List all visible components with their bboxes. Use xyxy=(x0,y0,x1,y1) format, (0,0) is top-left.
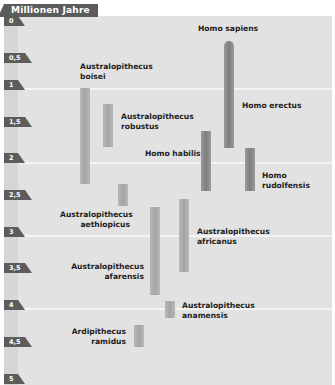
label-line-2: africanus xyxy=(197,237,270,247)
bar-homo-sapiens-erectus xyxy=(224,41,234,148)
bar-homo-habilis xyxy=(201,131,211,191)
label-homo-erectus: Homo erectus xyxy=(242,101,301,111)
bar-australopithecus-robustus xyxy=(103,104,113,147)
label-line-2: anamensis xyxy=(182,311,255,321)
tick-5: 5 xyxy=(4,374,18,384)
label-australopithecus-robustus: Australopithecus robustus xyxy=(121,112,194,132)
bar-australopithecus-aethiopicus xyxy=(118,184,128,206)
gridline-3 xyxy=(18,235,332,237)
label-line-1: Homo xyxy=(262,171,310,181)
label-homo-sapiens: Homo sapiens xyxy=(198,24,258,34)
label-line-2: afarensis xyxy=(70,272,144,282)
label-line-1: Australopithecus xyxy=(70,262,144,272)
tick-1-5: 1,5 xyxy=(4,117,25,127)
label-line-1: Australopithecus xyxy=(182,301,255,311)
label-line-1: Australopithecus xyxy=(197,227,270,237)
label-line-1: Ardipithecus xyxy=(66,327,126,337)
bar-australopithecus-anamensis xyxy=(165,301,175,318)
chart-panel xyxy=(4,16,332,385)
tick-0: 0 xyxy=(4,16,18,26)
label-line-1: Australopithecus xyxy=(121,112,194,122)
label-homo-habilis: Homo habilis xyxy=(145,149,197,159)
label-homo-rudolfensis: Homo rudolfensis xyxy=(262,171,310,191)
tick-4: 4 xyxy=(4,300,18,310)
label-line-2: rudolfensis xyxy=(262,181,310,191)
bar-homo-rudolfensis xyxy=(245,148,255,191)
bar-australopithecus-boisei xyxy=(80,88,90,184)
label-line-2: boisei xyxy=(80,72,153,82)
tick-4-5: 4,5 xyxy=(4,337,25,347)
gridline-1 xyxy=(18,88,332,90)
label-australopithecus-anamensis: Australopithecus anamensis xyxy=(182,301,255,321)
label-line-1: Australopithecus xyxy=(80,62,153,72)
label-australopithecus-africanus: Australopithecus africanus xyxy=(197,227,270,247)
bar-australopithecus-afarensis xyxy=(150,207,160,295)
label-australopithecus-aethiopicus: Australopithecus aethiopicus xyxy=(60,210,130,230)
bar-australopithecus-africanus xyxy=(179,199,189,272)
label-australopithecus-afarensis: Australopithecus afarensis xyxy=(70,262,144,282)
bar-ardipithecus-ramidus xyxy=(134,325,144,347)
y-axis-strip xyxy=(4,16,18,385)
label-line-1: Australopithecus xyxy=(60,210,130,220)
label-australopithecus-boisei: Australopithecus boisei xyxy=(80,62,153,82)
tick-3: 3 xyxy=(4,227,18,237)
label-ardipithecus-ramidus: Ardipithecus ramidus xyxy=(66,327,126,347)
gridline-4 xyxy=(18,308,332,310)
tick-0-5: 0,5 xyxy=(4,53,25,63)
label-line-2: ramidus xyxy=(66,337,126,347)
tick-1: 1 xyxy=(4,80,18,90)
tick-2: 2 xyxy=(4,153,18,163)
tick-3-5: 3,5 xyxy=(4,263,25,273)
gridline-2 xyxy=(18,162,332,164)
label-line-2: robustus xyxy=(121,122,194,132)
label-line-2: aethiopicus xyxy=(60,220,130,230)
tick-2-5: 2,5 xyxy=(4,190,25,200)
